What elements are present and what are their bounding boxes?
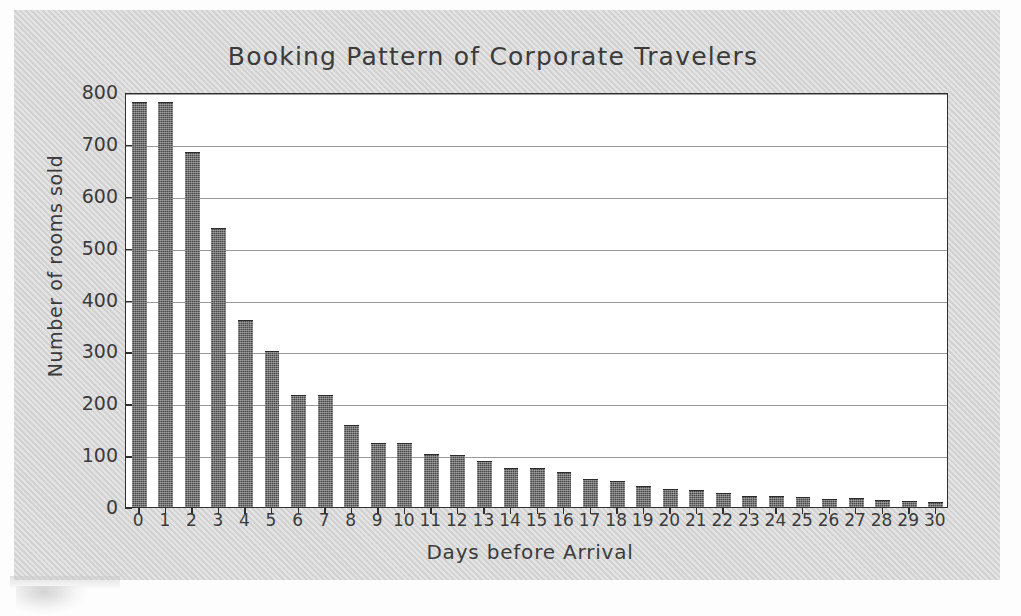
bar bbox=[158, 102, 173, 507]
y-axis-tick-mark bbox=[125, 404, 132, 405]
bar bbox=[663, 489, 678, 507]
y-axis-tick-mark bbox=[125, 456, 132, 457]
y-axis-tick-label: 0 bbox=[62, 498, 118, 517]
plot-area bbox=[125, 93, 948, 508]
y-axis-tick-mark bbox=[125, 145, 132, 146]
y-axis-tick-mark bbox=[125, 197, 132, 198]
y-axis-tick-labels: 0100200300400500600700800 bbox=[50, 93, 118, 508]
bar bbox=[796, 497, 811, 507]
x-axis-title: Days before Arrival bbox=[110, 540, 950, 564]
y-axis-tick-mark bbox=[125, 508, 132, 509]
bar bbox=[371, 443, 386, 507]
bar bbox=[318, 395, 333, 507]
y-axis-tick-mark bbox=[125, 352, 132, 353]
y-axis-tick-label: 300 bbox=[62, 342, 118, 361]
bar bbox=[689, 490, 704, 507]
bar bbox=[902, 501, 917, 507]
gridline bbox=[126, 302, 947, 303]
y-axis-tick-label: 400 bbox=[62, 291, 118, 310]
paper-smudge-mark bbox=[16, 586, 86, 614]
bar bbox=[636, 486, 651, 507]
bar bbox=[716, 493, 731, 507]
bar bbox=[238, 320, 253, 507]
bar bbox=[530, 468, 545, 507]
bar bbox=[504, 468, 519, 507]
chart-title: Booking Pattern of Corporate Travelers bbox=[0, 42, 986, 71]
y-axis-tick-label: 700 bbox=[62, 135, 118, 154]
y-axis-tick-label: 100 bbox=[62, 446, 118, 465]
bar bbox=[557, 472, 572, 507]
gridline bbox=[126, 146, 947, 147]
y-axis-tick-label: 600 bbox=[62, 187, 118, 206]
y-axis-tick-mark bbox=[125, 301, 132, 302]
bar bbox=[742, 496, 757, 507]
bar bbox=[132, 102, 147, 507]
y-axis-tick-label: 800 bbox=[62, 83, 118, 102]
bar bbox=[822, 499, 837, 507]
screenshot-page: Booking Pattern of Corporate Travelers N… bbox=[0, 0, 1021, 616]
y-axis-tick-mark bbox=[125, 93, 132, 94]
bar bbox=[344, 425, 359, 507]
bar bbox=[928, 502, 943, 507]
bar bbox=[583, 479, 598, 507]
gridline bbox=[126, 198, 947, 199]
gridline bbox=[126, 94, 947, 95]
bar bbox=[610, 481, 625, 507]
bar bbox=[424, 454, 439, 507]
bar bbox=[769, 496, 784, 507]
bar bbox=[265, 351, 280, 507]
bar bbox=[875, 500, 890, 507]
bar bbox=[397, 443, 412, 507]
bar bbox=[450, 455, 465, 507]
y-axis-tick-mark bbox=[125, 249, 132, 250]
bar bbox=[477, 461, 492, 507]
gridline bbox=[126, 250, 947, 251]
y-axis-tick-label: 200 bbox=[62, 394, 118, 413]
bar bbox=[185, 152, 200, 507]
bar bbox=[849, 498, 864, 507]
bar bbox=[291, 395, 306, 507]
bar bbox=[211, 228, 226, 507]
y-axis-tick-label: 500 bbox=[62, 239, 118, 258]
